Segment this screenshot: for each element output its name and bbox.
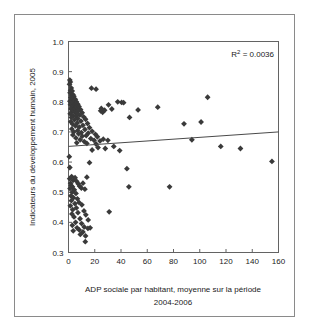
x-tick-label: 0	[66, 257, 71, 266]
data-point-marker	[66, 154, 72, 160]
y-axis-ticks	[69, 42, 73, 253]
x-axis-title-line2: 2004-2006	[154, 298, 193, 307]
x-tick-label: 160	[272, 257, 286, 266]
data-point-marker	[85, 217, 91, 223]
data-point-marker	[218, 143, 224, 149]
data-point-marker	[109, 106, 115, 112]
chart-figure: 020406080100120140160 0.30.40.50.60.70.8…	[0, 0, 309, 332]
y-tick-label: 0.6	[52, 158, 64, 167]
y-axis-tick-labels: 0.30.40.50.60.70.80.91.0	[52, 38, 64, 258]
x-tick-label: 80	[169, 257, 178, 266]
data-point-marker	[124, 166, 130, 172]
data-point-marker	[111, 143, 117, 149]
data-point-marker	[75, 210, 81, 216]
data-point-marker	[126, 184, 132, 190]
r-squared-annotation: R2 = 0.0036	[231, 49, 274, 59]
data-point-marker	[84, 174, 90, 180]
data-point-marker	[238, 146, 244, 152]
x-axis-tick-labels: 020406080100120140160	[66, 257, 285, 266]
data-point-marker	[106, 209, 112, 215]
x-axis-ticks	[69, 249, 279, 253]
x-tick-label: 20	[90, 257, 99, 266]
data-point-marker	[89, 147, 95, 153]
y-tick-label: 1.0	[52, 38, 64, 47]
data-point-marker	[117, 148, 123, 154]
data-point-marker	[77, 216, 83, 222]
data-point-marker	[89, 85, 95, 91]
data-point-marker	[181, 121, 187, 127]
y-tick-label: 0.7	[52, 128, 64, 137]
x-tick-label: 140	[246, 257, 260, 266]
y-tick-label: 0.9	[52, 68, 64, 77]
data-point-marker	[155, 104, 161, 110]
x-tick-label: 60	[143, 257, 152, 266]
y-tick-label: 0.5	[52, 188, 64, 197]
data-point-marker	[82, 239, 88, 245]
x-axis-title-line1: ADP sociale par habitant, moyenne sur la…	[85, 285, 262, 294]
data-point-marker	[205, 94, 211, 100]
data-point-marker	[87, 160, 93, 166]
y-tick-label: 0.8	[52, 98, 64, 107]
data-point-marker	[106, 102, 112, 108]
x-tick-label: 40	[117, 257, 126, 266]
data-point-marker	[93, 86, 99, 92]
data-point-marker	[135, 107, 141, 113]
r-squared-value: = 0.0036	[240, 50, 274, 59]
data-point-marker	[269, 159, 275, 165]
y-axis-title: Indicateurs du développement humain, 200…	[28, 68, 37, 226]
data-point-marker	[67, 165, 73, 171]
data-point-marker	[198, 119, 204, 125]
y-tick-label: 0.4	[52, 218, 64, 227]
scatter-chart: 020406080100120140160 0.30.40.50.60.70.8…	[0, 0, 309, 332]
data-point-marker	[167, 184, 173, 190]
x-tick-label: 100	[193, 257, 207, 266]
data-point-marker	[127, 115, 133, 121]
data-point-marker	[102, 146, 108, 152]
y-tick-label: 0.3	[52, 249, 64, 258]
x-tick-label: 120	[219, 257, 233, 266]
data-point-marker	[105, 137, 111, 143]
scatter-markers	[66, 77, 274, 244]
